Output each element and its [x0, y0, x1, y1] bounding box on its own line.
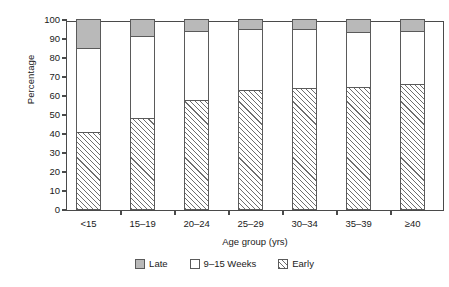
bar-segment-early — [400, 84, 425, 210]
y-tick-mark — [62, 152, 67, 153]
x-category-label: <15 — [81, 218, 97, 229]
x-tick-mark — [174, 210, 175, 215]
hatched-swatch-icon — [278, 259, 288, 269]
gray-swatch-icon — [135, 259, 145, 269]
x-tick-mark — [282, 210, 283, 215]
bar-segment-early — [346, 87, 371, 210]
y-tick-label: 60 — [49, 90, 60, 102]
stacked-bar — [346, 20, 371, 210]
bar-segment-late — [76, 19, 101, 49]
legend-item: Late — [135, 258, 168, 269]
x-category-label: 20–24 — [183, 218, 209, 229]
stacked-bar — [184, 20, 209, 210]
legend-item: Early — [278, 258, 314, 269]
y-tick-mark — [62, 209, 67, 210]
stacked-bar — [292, 20, 317, 210]
y-tick-mark — [62, 114, 67, 115]
bar-segment-early — [76, 132, 101, 210]
x-category-label: 30–34 — [291, 218, 317, 229]
y-tick-mark — [62, 133, 67, 134]
bar-segment-early — [130, 118, 155, 210]
legend-label: Late — [149, 258, 168, 269]
y-tick-label: 100 — [44, 14, 60, 26]
y-tick-mark — [62, 190, 67, 191]
bar-segment-early — [238, 90, 263, 210]
x-tick-mark — [120, 210, 121, 215]
y-tick-label: 80 — [49, 52, 60, 64]
y-tick-label: 30 — [49, 147, 60, 159]
y-tick-mark — [62, 171, 67, 172]
y-tick-mark — [62, 19, 67, 20]
stacked-bar — [76, 20, 101, 210]
y-tick-label: 10 — [49, 185, 60, 197]
bar-segment-mid — [346, 32, 371, 88]
x-tick-mark — [228, 210, 229, 215]
x-axis-title: Age group (yrs) — [66, 236, 444, 247]
bar-segment-late — [184, 19, 209, 32]
bar-segment-early — [292, 88, 317, 210]
bar-segment-late — [238, 19, 263, 30]
x-category-label: 25–29 — [237, 218, 263, 229]
x-tick-mark — [390, 210, 391, 215]
stacked-bar — [130, 20, 155, 210]
y-tick-label: 90 — [49, 33, 60, 45]
x-tick-mark — [336, 210, 337, 215]
chart-legend: Late9–15 WeeksEarly — [0, 258, 449, 269]
y-tick-label: 70 — [49, 71, 60, 83]
chart-figure: Percentage 0102030405060708090100 <1515–… — [0, 0, 449, 287]
legend-item: 9–15 Weeks — [190, 258, 257, 269]
y-tick-mark — [62, 57, 67, 58]
legend-label: Early — [292, 258, 314, 269]
plot-area: 0102030405060708090100 <1515–1920–2425–2… — [66, 21, 444, 211]
bar-segment-late — [400, 19, 425, 32]
y-tick-label: 0 — [55, 204, 60, 216]
legend-label: 9–15 Weeks — [204, 258, 257, 269]
white-swatch-icon — [190, 259, 200, 269]
bar-segment-mid — [130, 36, 155, 119]
y-tick-label: 40 — [49, 128, 60, 140]
stacked-bar — [400, 20, 425, 210]
x-category-label: 15–19 — [129, 218, 155, 229]
y-tick-mark — [62, 38, 67, 39]
bar-segment-late — [346, 19, 371, 33]
bar-segment-mid — [238, 29, 263, 91]
bar-segment-early — [184, 100, 209, 210]
y-tick-mark — [62, 76, 67, 77]
y-tick-label: 20 — [49, 166, 60, 178]
x-category-label: ≥40 — [405, 218, 421, 229]
bar-segment-late — [130, 19, 155, 37]
x-category-label: 35–39 — [345, 218, 371, 229]
bar-segment-mid — [400, 31, 425, 84]
y-tick-mark — [62, 95, 67, 96]
bar-segment-late — [292, 19, 317, 30]
stacked-bar — [238, 20, 263, 210]
y-tick-label: 50 — [49, 109, 60, 121]
y-axis-title: Percentage — [25, 10, 36, 150]
bar-segment-mid — [292, 29, 317, 89]
bar-segment-mid — [76, 48, 101, 134]
bar-segment-mid — [184, 31, 209, 100]
